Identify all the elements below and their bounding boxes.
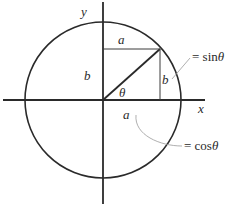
- sin-prefix: = sin: [192, 49, 218, 64]
- cos-theta: θ: [212, 138, 219, 153]
- right-b-label: b: [162, 72, 169, 87]
- bottom-a-label: a: [123, 107, 130, 122]
- x-axis-label: x: [197, 101, 204, 116]
- unit-circle-diagram: y x a b b a θ = sinθ = cosθ: [0, 0, 233, 215]
- cos-annotation: = cosθ: [184, 138, 219, 153]
- radius-line: [103, 49, 160, 100]
- sin-theta: θ: [218, 49, 225, 64]
- top-a-label: a: [118, 32, 125, 47]
- sin-annotation: = sinθ: [192, 49, 225, 64]
- y-axis-label: y: [79, 4, 87, 19]
- left-b-label: b: [84, 68, 91, 83]
- cos-prefix: = cos: [184, 138, 212, 153]
- angle-theta-label: θ: [119, 85, 126, 100]
